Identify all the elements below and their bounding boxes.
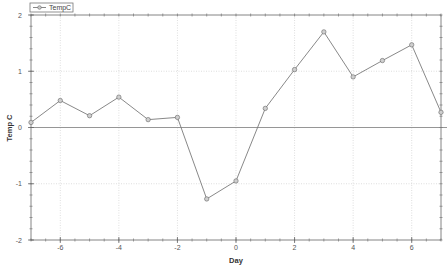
x-tick-label: 4	[351, 244, 355, 251]
data-point	[146, 117, 150, 121]
x-tick-labels: -6-4-20246	[57, 244, 414, 251]
x-tick-label: -2	[174, 244, 180, 251]
data-point	[380, 58, 384, 62]
legend: TempC	[30, 3, 73, 12]
y-tick-label: -2	[16, 237, 22, 244]
x-tick-label: -4	[116, 244, 122, 251]
legend-marker-icon	[38, 6, 42, 10]
data-point	[351, 75, 355, 79]
data-point	[292, 67, 296, 71]
data-point	[87, 113, 91, 117]
x-tick-label: 2	[293, 244, 297, 251]
legend-label: TempC	[49, 4, 71, 12]
line-chart: -6-4-20246 -2-1012 Day Temp C TempC	[0, 0, 448, 267]
x-tick-label: -6	[57, 244, 63, 251]
minor-ticks	[28, 14, 443, 244]
y-tick-label: 1	[18, 68, 22, 75]
y-tick-label: -1	[16, 180, 22, 187]
data-point	[234, 179, 238, 183]
y-tick-label: 2	[18, 12, 22, 19]
y-tick-labels: -2-1012	[16, 12, 22, 244]
x-tick-label: 0	[234, 244, 238, 251]
x-tick-label: 6	[410, 244, 414, 251]
data-point	[29, 120, 33, 124]
data-point	[439, 110, 443, 114]
data-point	[322, 30, 326, 34]
x-axis-title: Day	[229, 256, 244, 265]
data-point	[117, 95, 121, 99]
data-point	[175, 115, 179, 119]
y-tick-label: 0	[18, 124, 22, 131]
data-point	[205, 197, 209, 201]
data-point	[58, 98, 62, 102]
data-point	[410, 43, 414, 47]
data-point	[263, 106, 267, 110]
y-axis-title: Temp C	[5, 114, 14, 142]
